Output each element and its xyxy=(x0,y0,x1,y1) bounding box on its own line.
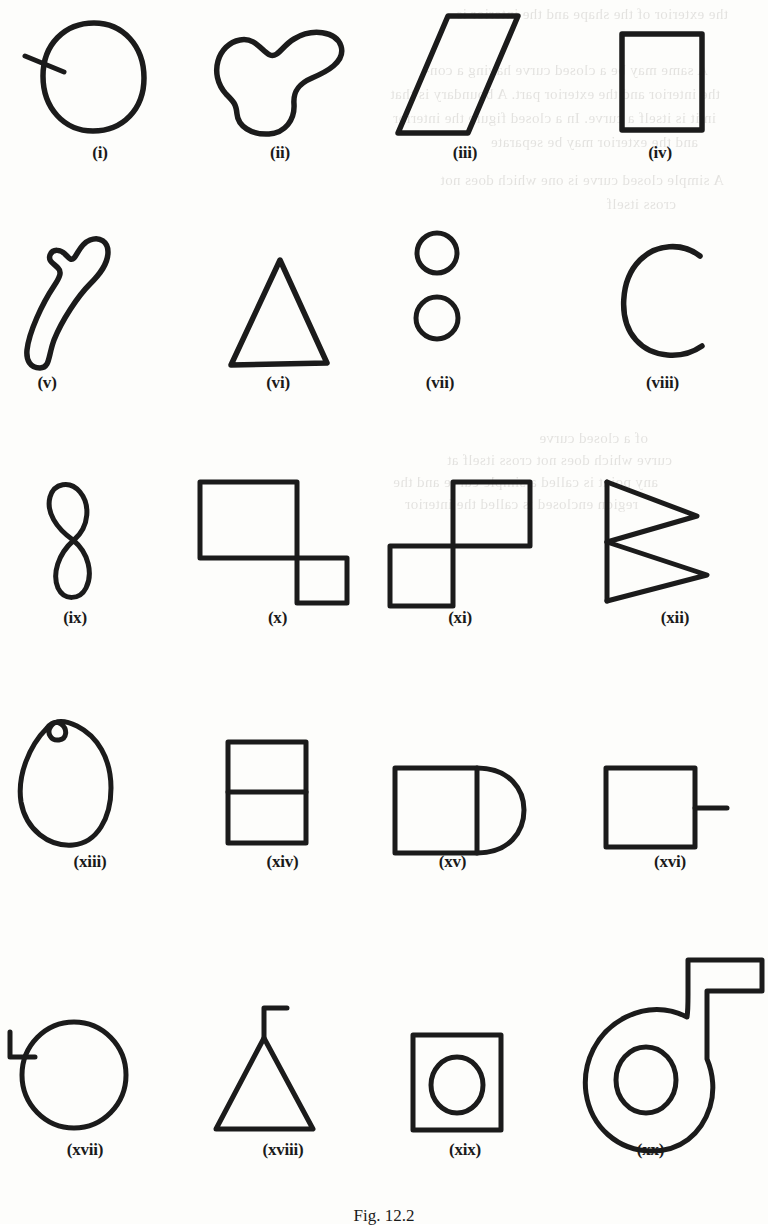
figure-caption: Fig. 12.2 xyxy=(0,1206,768,1226)
shape-xvii-circle-with-hook xyxy=(0,990,185,1140)
shape-label-i: (i) xyxy=(10,143,190,163)
shape-ix-figure-eight xyxy=(10,470,190,610)
shape-v-curved-hook xyxy=(2,228,182,378)
shape-i-circle-with-stroke xyxy=(10,8,190,148)
shape-vii-circle-lower xyxy=(416,297,458,339)
shape-iv-rectangle xyxy=(570,8,750,148)
shape-cell-xi: (xi) xyxy=(385,470,570,635)
shape-xx-ring-with-flag xyxy=(568,955,768,1155)
shape-label-xiii: (xiii) xyxy=(5,852,175,872)
shape-label-x: (x) xyxy=(185,608,370,628)
shape-xix-square-with-inner-circle xyxy=(385,990,570,1140)
shape-cell-xx: (xx) xyxy=(568,955,768,1170)
shape-ii-irregular-blob xyxy=(190,8,370,148)
shape-cell-xii: (xii) xyxy=(585,470,765,635)
shape-label-xx: (xx) xyxy=(568,1140,733,1160)
shape-label-xviii: (xviii) xyxy=(188,1140,378,1160)
shape-cell-vi: (vi) xyxy=(188,228,368,398)
shape-cell-xv: (xv) xyxy=(385,700,565,875)
shape-label-vi: (vi) xyxy=(188,373,368,393)
shape-label-ix: (ix) xyxy=(10,608,140,628)
shape-label-xv: (xv) xyxy=(385,852,520,872)
shape-viii-open-arc xyxy=(570,228,755,378)
shape-label-v: (v) xyxy=(2,373,92,393)
shape-cell-xiii: (xiii) xyxy=(5,700,190,875)
shape-xx-inner-circle xyxy=(616,1047,676,1113)
shape-cell-xvii: (xvii) xyxy=(0,990,185,1170)
shape-xvi-square-with-segment xyxy=(590,700,768,855)
shape-label-xvii: (xvii) xyxy=(0,1140,170,1160)
shape-label-xiv: (xiv) xyxy=(195,852,370,872)
shape-iii-parallelogram xyxy=(375,8,555,148)
shape-label-xi: (xi) xyxy=(385,608,535,628)
shape-label-xii: (xii) xyxy=(585,608,765,628)
shape-cell-x: (x) xyxy=(185,470,370,635)
shape-cell-iv: (iv) xyxy=(570,8,750,168)
shape-cell-vii: (vii) xyxy=(375,228,555,398)
shape-cell-iii: (iii) xyxy=(375,8,555,168)
shape-label-ii: (ii) xyxy=(190,143,370,163)
shape-xiv-divided-rectangle xyxy=(195,700,375,855)
shape-xix-inner-circle xyxy=(431,1057,483,1113)
shape-xviii-triangle-with-flag xyxy=(188,990,373,1140)
shape-label-iv: (iv) xyxy=(570,143,750,163)
shape-label-xvi: (xvi) xyxy=(590,852,750,872)
shape-vi-triangle xyxy=(188,228,368,378)
shape-xv-square-with-semicircle xyxy=(385,700,565,855)
shape-label-iii: (iii) xyxy=(375,143,555,163)
shape-vii-circle-upper xyxy=(417,233,457,273)
shape-cell-ii: (ii) xyxy=(190,8,370,168)
shape-cell-viii: (viii) xyxy=(570,228,755,398)
shape-xii-double-triangle xyxy=(585,470,765,610)
shape-label-viii: (viii) xyxy=(570,373,755,393)
shape-vii-two-circles xyxy=(375,228,555,378)
shape-cell-i: (i) xyxy=(10,8,190,168)
shape-cell-xix: (xix) xyxy=(385,990,570,1170)
shape-cell-ix: (ix) xyxy=(10,470,190,635)
shape-cell-xviii: (xviii) xyxy=(188,990,373,1170)
shape-cell-xvi: (xvi) xyxy=(590,700,768,875)
shape-cell-xiv: (xiv) xyxy=(195,700,375,875)
shape-xiii-oval-with-loop xyxy=(5,700,190,855)
shape-x-square-with-small-square xyxy=(185,470,370,610)
shape-label-xix: (xix) xyxy=(385,1140,545,1160)
shape-xi-two-squares-corner xyxy=(385,470,570,610)
shape-cell-v: (v) xyxy=(2,228,182,398)
shape-label-vii: (vii) xyxy=(375,373,505,393)
